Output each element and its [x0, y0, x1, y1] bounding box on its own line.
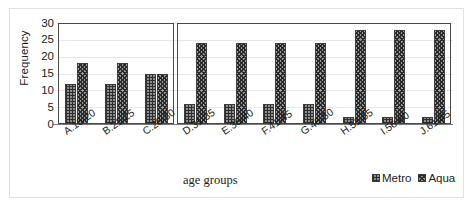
chart-legend: MetroAqua — [372, 172, 455, 184]
legend-label-aqua: Aqua — [428, 172, 455, 184]
y-axis-tick: 15 — [41, 68, 54, 79]
y-axis-tick: 25 — [41, 34, 54, 45]
panel-right — [177, 23, 451, 124]
y-axis-tick-labels: 051015202530 — [30, 17, 54, 129]
y-axis-tick: 20 — [41, 51, 54, 62]
plot-area — [57, 23, 453, 124]
legend-label-metro: Metro — [382, 172, 411, 184]
legend-swatch-icon-aqua — [418, 174, 426, 182]
x-axis-category-labels: A.16-20B.21-25C.26-30D.31-35E.36-40F.41-… — [57, 127, 453, 169]
y-axis-tick: 10 — [41, 85, 54, 96]
legend-item-metro[interactable]: Metro — [372, 172, 411, 184]
legend-item-aqua[interactable]: Aqua — [418, 172, 455, 184]
legend-swatch-icon-metro — [372, 174, 380, 182]
y-axis-tick: 30 — [41, 18, 54, 29]
y-axis-title: Frequency — [18, 18, 30, 98]
y-axis-tick: 5 — [48, 102, 54, 113]
bar-chart: Frequency 051015202530 A.16-20B.21-25C.2… — [0, 0, 474, 208]
x-axis-title: age groups — [183, 173, 238, 188]
